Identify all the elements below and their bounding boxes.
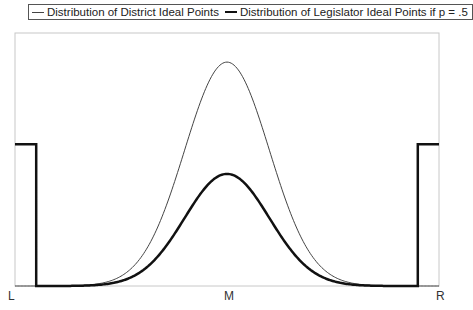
x-tick-right: R (436, 289, 445, 303)
legislator-distribution-line (15, 144, 439, 286)
x-tick-left: L (8, 289, 15, 303)
legend-item-legislator: Distribution of Legislator Ideal Points … (225, 6, 468, 18)
legend-item-district: Distribution of District Ideal Points (32, 6, 219, 18)
thin-line-swatch-icon (32, 12, 44, 13)
legend-label-legislator: Distribution of Legislator Ideal Points … (240, 6, 468, 18)
legend-label-district: Distribution of District Ideal Points (47, 6, 219, 18)
x-tick-middle: M (224, 289, 234, 303)
thick-line-swatch-icon (225, 11, 237, 14)
chart-legend: Distribution of District Ideal Points Di… (28, 4, 473, 20)
plot-frame (15, 33, 439, 286)
